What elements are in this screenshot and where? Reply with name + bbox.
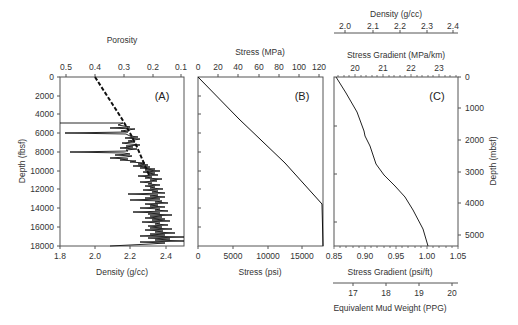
stress-gradient-line [336, 77, 428, 246]
svg-text:15000: 15000 [290, 251, 314, 261]
porosity-tick: 0.4 [89, 62, 101, 72]
svg-text:0: 0 [196, 62, 201, 72]
svg-text:2000: 2000 [465, 135, 484, 145]
svg-text:60: 60 [254, 62, 264, 72]
svg-text:6000: 6000 [35, 128, 54, 138]
mud-weight-axis-title: Equivalent Mud Weight (PPG) [333, 303, 446, 313]
density-a-axis-title: Density (g/cc) [96, 267, 148, 277]
stress-grad-mpa-axis-title: Stress Gradient (MPa/km) [347, 50, 445, 60]
svg-text:3000: 3000 [465, 167, 484, 177]
svg-text:2.2: 2.2 [394, 21, 406, 31]
svg-text:0: 0 [196, 251, 201, 261]
panel-c-label: (C) [429, 90, 444, 102]
density-a-tick: 2.0 [89, 251, 101, 261]
density-c-axis-title: Density (g/cc) [370, 9, 422, 19]
density-log-line [60, 123, 184, 246]
svg-text:10000: 10000 [30, 166, 54, 176]
svg-text:0.90: 0.90 [357, 251, 374, 261]
svg-text:120: 120 [312, 62, 326, 72]
svg-text:5000: 5000 [465, 230, 484, 240]
porosity-tick: 0.3 [118, 62, 130, 72]
svg-text:2.3: 2.3 [421, 21, 433, 31]
porosity-tick: 0.1 [175, 62, 187, 72]
density-a-tick: 1.8 [54, 251, 66, 261]
svg-text:20: 20 [447, 288, 457, 298]
svg-text:22: 22 [406, 63, 416, 73]
depth-fbsf-axis-title: Depth (fbsf) [17, 139, 27, 184]
svg-text:2.4: 2.4 [447, 21, 459, 31]
stress-psi-axis-title: Stress (psi) [239, 267, 282, 277]
svg-text:10000: 10000 [256, 251, 280, 261]
figure-canvas: Porosity 0.5 0.4 0.3 0.2 0.1 0 2000 4000… [0, 0, 518, 325]
svg-text:1.05: 1.05 [450, 251, 467, 261]
svg-text:4000: 4000 [35, 109, 54, 119]
svg-text:16000: 16000 [30, 222, 54, 232]
svg-text:1.00: 1.00 [419, 251, 436, 261]
svg-text:8000: 8000 [35, 147, 54, 157]
panel-c-frame [334, 77, 458, 246]
density-a-tick: 2.4 [160, 251, 172, 261]
svg-text:40: 40 [233, 62, 243, 72]
depth-left-ticks: 0 2000 4000 6000 8000 10000 12000 14000 … [30, 72, 60, 251]
panel-b: Stress (MPa) 0 20 40 60 80 100 120 (B) 0… [196, 47, 327, 277]
depth-mbsf-axis-title: Depth (mbsf) [488, 136, 498, 185]
panel-a-label: (A) [155, 90, 170, 102]
svg-text:18000: 18000 [30, 241, 54, 251]
stress-mpa-axis-title: Stress (MPa) [235, 47, 285, 57]
svg-text:2.1: 2.1 [367, 21, 379, 31]
panel-c: Density (g/cc) 2.0 2.1 2.2 2.3 2.4 Stres… [326, 9, 498, 313]
svg-text:2000: 2000 [35, 91, 54, 101]
svg-text:0: 0 [465, 72, 470, 82]
svg-text:0: 0 [49, 72, 54, 82]
density-a-tick: 2.2 [124, 251, 136, 261]
svg-text:5000: 5000 [224, 251, 243, 261]
stress-line [198, 77, 323, 246]
svg-text:1000: 1000 [465, 103, 484, 113]
svg-text:0.95: 0.95 [388, 251, 405, 261]
svg-text:19: 19 [414, 288, 424, 298]
svg-text:23: 23 [434, 63, 444, 73]
svg-text:4000: 4000 [465, 198, 484, 208]
panel-a: Porosity 0.5 0.4 0.3 0.2 0.1 0 2000 4000… [17, 35, 187, 277]
svg-text:80: 80 [274, 62, 284, 72]
svg-text:100: 100 [292, 62, 306, 72]
svg-text:0.85: 0.85 [326, 251, 343, 261]
porosity-tick: 0.2 [147, 62, 159, 72]
svg-text:17: 17 [348, 288, 358, 298]
svg-text:20: 20 [213, 62, 223, 72]
panel-b-frame [198, 77, 323, 246]
porosity-tick: 0.5 [60, 62, 72, 72]
porosity-axis-title: Porosity [107, 35, 138, 45]
stress-grad-psi-axis-title: Stress Gradient (psi/ft) [347, 267, 432, 277]
svg-text:14000: 14000 [30, 203, 54, 213]
svg-text:12000: 12000 [30, 184, 54, 194]
svg-text:18: 18 [381, 288, 391, 298]
svg-text:2.0: 2.0 [339, 21, 351, 31]
panel-b-label: (B) [295, 90, 310, 102]
svg-text:21: 21 [378, 63, 388, 73]
svg-text:20: 20 [350, 63, 360, 73]
stress-grad-psi-tick-marks [334, 246, 458, 249]
